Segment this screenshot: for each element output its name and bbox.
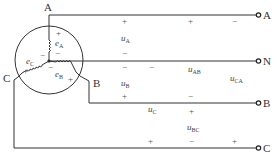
ub-minus: − [122,62,127,72]
winding-b-coil [49,61,80,77]
ua-label: uA [121,33,131,44]
uca-label: uCA [230,73,244,84]
terminal-label-c: C [263,142,270,154]
ub-plus: + [122,91,127,101]
uca-minus: − [232,16,237,26]
generator-label-c: C [3,72,10,84]
generator-label-b: B [93,77,100,89]
winding-a-coil [49,33,51,61]
ua-minus: − [122,48,127,58]
uc-plus: + [148,136,153,146]
terminal-label-b: B [263,97,270,109]
diagram-canvas: A N B C A B C eA + − eB − + eC − + + uA … [0,0,278,160]
ubc-label: uBC [187,122,200,133]
emf-b-minus: − [48,62,53,72]
emf-b-label: eB [55,69,63,80]
terminal-label-n: N [263,55,271,67]
uab-plus: + [188,16,193,26]
uc-label: uC [148,104,157,115]
generator-label-a: A [44,1,52,13]
terminal-n [256,59,260,63]
emf-c-minus: − [40,50,45,60]
uab-label: uAB [188,64,201,75]
emf-b-plus: + [68,74,73,84]
emf-c-plus: + [23,66,28,76]
uca-plus: + [232,136,237,146]
ua-plus: + [122,16,127,26]
emf-a-minus: − [55,48,60,58]
ubc-plus: + [189,106,194,116]
star-connection-diagram: A N B C A B C eA + − eB − + eC − + + uA … [0,0,278,160]
uc-minus: − [149,62,154,72]
wire-c-lead [14,77,256,148]
terminal-c [256,146,260,150]
uab-minus: − [188,91,193,101]
terminal-label-a: A [263,9,271,21]
ub-label: uB [121,78,130,89]
ubc-minus: − [189,136,194,146]
terminal-a [256,13,260,17]
emf-a-plus: + [56,28,61,38]
terminal-b [256,101,260,105]
wire-a-lead [49,15,256,33]
